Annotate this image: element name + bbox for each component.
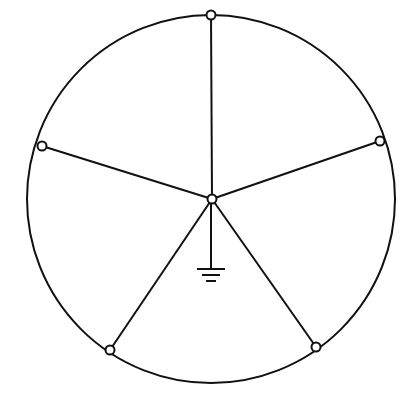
- node-top: [207, 11, 216, 20]
- spoke-bottom-left: [110, 199, 212, 350]
- spoke-top: [211, 15, 212, 199]
- spoke-bottom-right: [212, 199, 316, 347]
- star-network-diagram: [0, 0, 409, 402]
- spokes-group: [42, 15, 380, 350]
- node-left: [38, 142, 47, 151]
- spoke-right: [212, 141, 380, 199]
- node-bottom-right: [312, 343, 321, 352]
- node-center: [208, 195, 217, 204]
- spoke-left: [42, 146, 212, 199]
- node-right: [376, 137, 385, 146]
- node-bottom-left: [106, 346, 115, 355]
